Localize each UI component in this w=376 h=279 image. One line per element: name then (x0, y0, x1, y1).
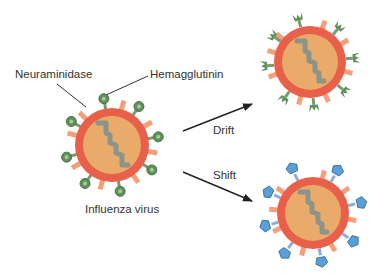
hemagglutinin-leader-line (106, 76, 148, 95)
neuraminidase-label: Neuraminidase (15, 68, 92, 80)
neuraminidase-leader-line (57, 84, 86, 107)
shift-label: Shift (213, 169, 236, 181)
influenza-diagram (0, 0, 376, 279)
hemagglutinin-label: Hemagglutinin (150, 68, 224, 80)
original-virus (60, 93, 164, 197)
influenza-virus-label: Influenza virus (85, 203, 159, 215)
shift-virus (258, 161, 368, 269)
drift-virus (260, 12, 360, 112)
drift-label: Drift (213, 124, 234, 136)
